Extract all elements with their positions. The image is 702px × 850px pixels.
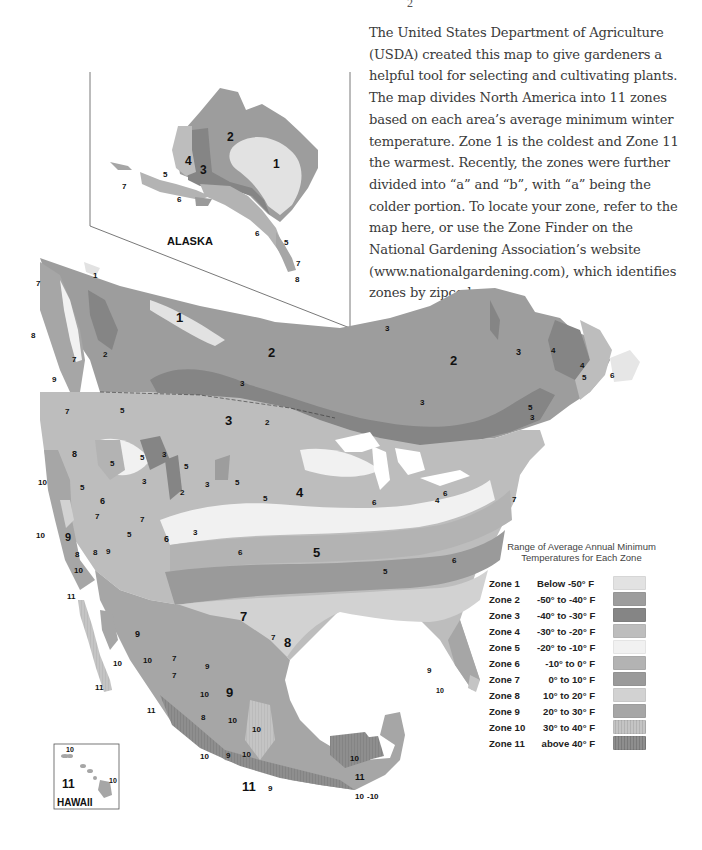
svg-text:8: 8 (284, 635, 291, 650)
svg-text:5: 5 (313, 545, 320, 560)
svg-text:10: 10 (109, 777, 117, 784)
svg-text:10: 10 (66, 746, 74, 753)
svg-text:11: 11 (355, 772, 365, 782)
svg-text:9: 9 (226, 685, 233, 700)
svg-text:7: 7 (172, 654, 177, 663)
svg-text:10: 10 (143, 656, 152, 665)
svg-text:5: 5 (263, 494, 268, 503)
svg-text:4: 4 (185, 154, 192, 168)
svg-text:5: 5 (127, 530, 132, 539)
swatch-zone-8 (613, 688, 646, 702)
svg-text:5: 5 (235, 478, 240, 487)
svg-text:2: 2 (450, 353, 457, 368)
svg-text:2: 2 (103, 350, 108, 359)
svg-text:9: 9 (427, 666, 432, 675)
svg-text:3: 3 (200, 163, 207, 177)
legend-title: Range of Average Annual Minimum Temperat… (489, 541, 674, 563)
svg-text:10: 10 (436, 687, 444, 694)
svg-text:7: 7 (72, 355, 77, 364)
svg-text:6: 6 (255, 229, 260, 238)
svg-text:6: 6 (372, 498, 377, 507)
svg-text:6: 6 (452, 556, 457, 565)
svg-text:2: 2 (227, 130, 234, 144)
svg-text:3: 3 (205, 480, 210, 489)
svg-text:3: 3 (225, 413, 232, 428)
svg-text:4: 4 (551, 346, 556, 355)
swatch-zone-2 (613, 592, 646, 606)
legend-row-zone-5: Zone 5 -20° to -10° F (489, 639, 689, 655)
svg-text:6: 6 (610, 371, 615, 380)
swatch-zone-7 (613, 672, 646, 686)
zone-legend: Range of Average Annual Minimum Temperat… (489, 541, 689, 751)
svg-text:10: 10 (228, 716, 237, 725)
svg-text:2: 2 (268, 345, 275, 360)
svg-text:7: 7 (95, 512, 100, 521)
svg-text:10: 10 (38, 478, 47, 487)
hawaii-inset: 10 11 10 HAWAII (54, 744, 119, 809)
svg-text:11: 11 (95, 683, 104, 692)
svg-text:3: 3 (530, 413, 535, 422)
svg-text:10: 10 (242, 750, 251, 759)
svg-text:6: 6 (100, 496, 105, 506)
svg-text:8: 8 (75, 550, 80, 559)
svg-text:1: 1 (93, 271, 98, 280)
svg-text:3: 3 (193, 528, 198, 537)
svg-text:5: 5 (140, 453, 145, 462)
svg-text:3: 3 (420, 398, 425, 407)
svg-text:10: 10 (252, 725, 261, 734)
swatch-zone-9 (613, 704, 646, 718)
swatch-zone-4 (613, 624, 646, 638)
svg-text:8: 8 (201, 713, 206, 722)
swatch-zone-5 (613, 640, 646, 654)
svg-text:7: 7 (172, 671, 177, 680)
svg-text:9: 9 (268, 784, 273, 793)
svg-text:9: 9 (52, 375, 57, 384)
svg-text:11: 11 (67, 592, 76, 601)
svg-text:6: 6 (443, 489, 448, 498)
legend-row-zone-6: Zone 6 -10° to 0° F (489, 655, 689, 671)
svg-text:5: 5 (184, 462, 189, 471)
svg-text:7: 7 (296, 259, 301, 268)
legend-row-zone-3: Zone 3 -40° to -30° F (489, 607, 689, 623)
svg-text:5: 5 (120, 406, 125, 415)
swatch-zone-3 (613, 608, 646, 622)
svg-text:7: 7 (512, 495, 517, 504)
svg-text:8: 8 (295, 275, 300, 284)
svg-text:6: 6 (238, 548, 243, 557)
svg-text:9: 9 (226, 751, 231, 760)
legend-row-zone-4: Zone 4 -30° to -20° F (489, 623, 689, 639)
svg-text:5: 5 (163, 170, 168, 179)
legend-row-zone-7: Zone 7 0° to 10° F (489, 671, 689, 687)
svg-text:11: 11 (242, 779, 256, 794)
svg-text:3: 3 (240, 379, 245, 388)
svg-text:5: 5 (284, 238, 289, 247)
legend-row-zone-8: Zone 8 10° to 20° F (489, 687, 689, 703)
svg-text:3: 3 (162, 450, 167, 459)
legend-row-zone-10: Zone 10 30° to 40° F (489, 719, 689, 735)
svg-text:2: 2 (265, 418, 270, 427)
svg-text:1: 1 (273, 157, 280, 171)
svg-text:7: 7 (240, 609, 247, 624)
legend-row-zone-1: Zone 1 Below -50° F (489, 575, 689, 591)
svg-text:-10: -10 (367, 792, 379, 801)
svg-text:6: 6 (177, 195, 182, 204)
svg-text:2: 2 (180, 488, 185, 497)
svg-text:8: 8 (31, 331, 36, 340)
svg-text:5: 5 (383, 567, 388, 576)
svg-text:4: 4 (296, 485, 304, 500)
svg-text:1: 1 (176, 310, 183, 325)
svg-text:9: 9 (106, 547, 111, 556)
legend-row-zone-11: Zone 11 above 40° F (489, 735, 689, 751)
svg-text:8: 8 (93, 548, 98, 557)
svg-text:10: 10 (113, 659, 122, 668)
swatch-zone-1 (613, 576, 646, 590)
svg-text:5: 5 (110, 459, 115, 468)
svg-text:11: 11 (62, 777, 75, 791)
svg-text:10: 10 (355, 792, 364, 801)
svg-text:10: 10 (200, 752, 209, 761)
swatch-zone-10 (613, 720, 646, 734)
svg-text:10: 10 (350, 754, 359, 763)
svg-text:5: 5 (528, 403, 533, 412)
svg-text:3: 3 (142, 477, 147, 486)
svg-text:5: 5 (582, 373, 587, 382)
